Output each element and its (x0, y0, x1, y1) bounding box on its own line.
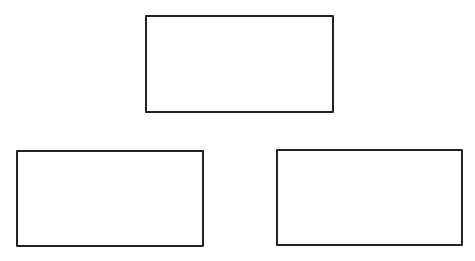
bottom-right-box (276, 149, 463, 246)
diagram-canvas (0, 0, 475, 261)
bottom-left-box (16, 150, 204, 247)
top-box (145, 15, 334, 113)
